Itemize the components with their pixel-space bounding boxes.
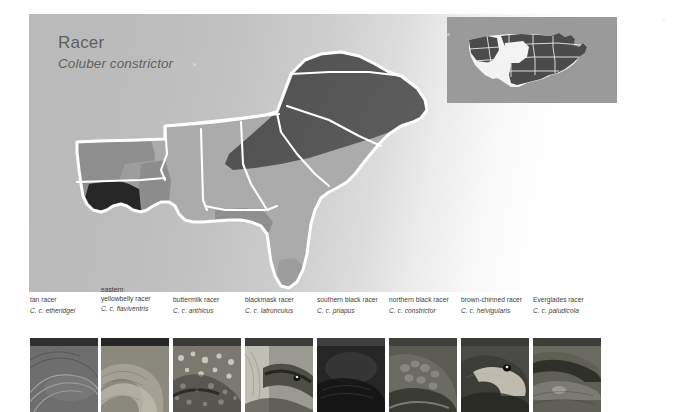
caption-common-name: northern black racer xyxy=(389,296,449,303)
photo-southern-black-racer[interactable] xyxy=(317,338,385,412)
caption-everglades-racer: Everglades racer C. c. paludicola xyxy=(533,296,619,315)
subspecies-caption-row: tan racer C. c. etheridgei eastern yello… xyxy=(29,296,676,336)
caption-common-name: tan racer xyxy=(30,296,56,303)
paper-speck xyxy=(193,63,196,66)
main-range-map xyxy=(29,14,449,299)
photo-blackmask-racer[interactable] xyxy=(245,338,313,412)
photo-brown-chinned-racer[interactable] xyxy=(461,338,529,412)
caption-scientific-name: C. c. paludicola xyxy=(533,306,619,315)
caption-common-name: yellowbelly racer xyxy=(101,295,151,302)
paper-speck xyxy=(662,18,665,21)
range-blackmask-racer xyxy=(139,160,171,218)
photo-tan-racer[interactable] xyxy=(30,338,98,412)
inset-range-map-panel xyxy=(447,17,617,103)
caption-common-name: southern black racer xyxy=(317,296,378,303)
caption-common-name: blackmask racer xyxy=(245,296,294,303)
caption-common-name: brown-chinned racer xyxy=(461,296,522,303)
caption-common-name: Everglades racer xyxy=(533,296,584,303)
subspecies-photo-strip xyxy=(29,338,676,412)
range-northern-black-racer xyxy=(225,50,429,170)
caption-common-name: buttermilk racer xyxy=(173,296,219,303)
map-range-layers xyxy=(29,14,449,299)
photo-northern-black-racer[interactable] xyxy=(389,338,457,412)
page-canvas: Racer Coluber constrictor xyxy=(0,0,676,412)
photo-eastern-yellowbelly-racer[interactable] xyxy=(101,338,169,412)
photo-everglades-racer[interactable] xyxy=(533,338,601,412)
paper-speck xyxy=(447,33,450,36)
caption-common-prefix: eastern xyxy=(101,286,187,295)
photo-buttermilk-racer[interactable] xyxy=(173,338,241,412)
